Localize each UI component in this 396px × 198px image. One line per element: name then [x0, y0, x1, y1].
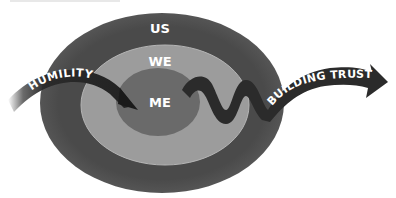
cropped-caption-fragment	[10, 0, 120, 2]
label-we: WE	[148, 54, 171, 69]
label-me: ME	[149, 95, 171, 110]
label-us: US	[150, 21, 170, 36]
concentric-circles-diagram: HUMILITY BUILDING TRUST US WE ME	[0, 0, 396, 198]
